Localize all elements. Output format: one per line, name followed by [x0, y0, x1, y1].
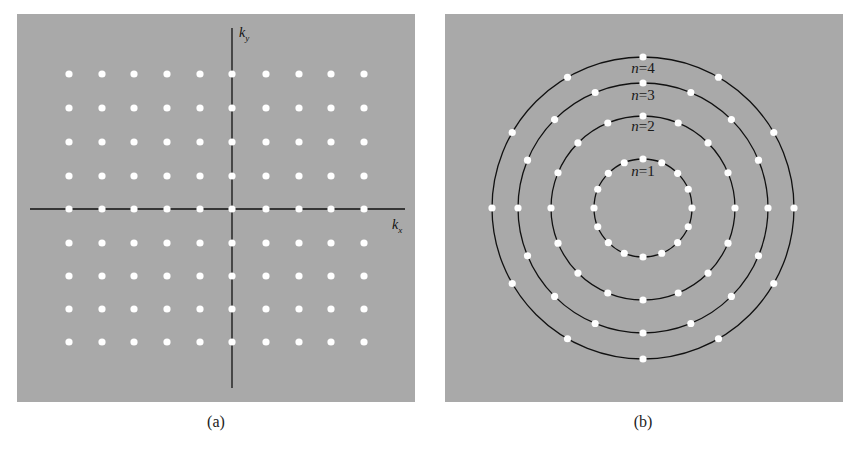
lattice-dot: [130, 272, 137, 279]
lattice-dot: [163, 104, 170, 111]
lattice-dot: [65, 172, 72, 179]
lattice-dot: [98, 138, 105, 145]
lattice-dot: [163, 305, 170, 312]
lattice-dot: [98, 338, 105, 345]
lattice-dot: [262, 305, 269, 312]
lattice-dot: [327, 205, 334, 212]
ring-dot: [547, 204, 554, 211]
lattice-dot: [163, 70, 170, 77]
lattice-dot: [262, 138, 269, 145]
ring-dot: [639, 329, 646, 336]
lattice-dot: [360, 239, 367, 246]
diagram-canvas: [0, 0, 849, 449]
ring-dot: [592, 320, 599, 327]
ring-dot: [551, 116, 558, 123]
ring-label-n2: n=2: [613, 118, 673, 135]
ring-dot: [509, 129, 516, 136]
ring-dot: [770, 129, 777, 136]
lattice-dot: [228, 205, 235, 212]
lattice-dot: [163, 239, 170, 246]
kx-axis-label: kx: [392, 217, 402, 235]
lattice-dot: [228, 138, 235, 145]
lattice-dot: [262, 205, 269, 212]
ring-dot: [688, 204, 695, 211]
lattice-dots: [65, 70, 367, 345]
lattice-dot: [196, 172, 203, 179]
lattice-dot: [130, 239, 137, 246]
ring-dot: [592, 89, 599, 96]
lattice-dot: [228, 305, 235, 312]
lattice-dot: [262, 272, 269, 279]
lattice-dot: [295, 338, 302, 345]
ring-dot: [639, 355, 646, 362]
lattice-dot: [228, 338, 235, 345]
lattice-dot: [130, 338, 137, 345]
ring-dot: [687, 320, 694, 327]
ring-dot: [715, 335, 722, 342]
lattice-dot: [98, 205, 105, 212]
lattice-dot: [327, 338, 334, 345]
lattice-dot: [327, 305, 334, 312]
caption-b: (b): [623, 413, 663, 431]
ring-dot: [724, 169, 731, 176]
ky-axis-label: ky: [239, 25, 249, 43]
ring-dot: [604, 289, 611, 296]
ring-dot: [674, 239, 681, 246]
lattice-dot: [196, 205, 203, 212]
ring-dot: [764, 204, 771, 211]
lattice-dot: [65, 138, 72, 145]
lattice-dot: [327, 138, 334, 145]
ring-dot: [488, 204, 495, 211]
lattice-dot: [262, 239, 269, 246]
ring-dot: [755, 157, 762, 164]
ring-dot: [790, 204, 797, 211]
ring-dot: [554, 169, 561, 176]
lattice-dot: [196, 239, 203, 246]
lattice-dot: [228, 172, 235, 179]
ring-dot: [574, 269, 581, 276]
lattice-dot: [327, 104, 334, 111]
ring-dot: [594, 186, 601, 193]
lattice-dot: [130, 138, 137, 145]
lattice-dot: [65, 239, 72, 246]
lattice-dot: [163, 172, 170, 179]
ring-dot: [770, 280, 777, 287]
lattice-dot: [262, 172, 269, 179]
lattice-dot: [196, 104, 203, 111]
ring-dot: [574, 139, 581, 146]
ring-dot: [658, 250, 665, 257]
lattice-dot: [360, 104, 367, 111]
ring-dot: [514, 204, 521, 211]
ring-dot: [685, 223, 692, 230]
lattice-dot: [295, 205, 302, 212]
lattice-dot: [196, 338, 203, 345]
lattice-dot: [295, 172, 302, 179]
ring-dot: [639, 296, 646, 303]
lattice-dot: [163, 338, 170, 345]
ring-dot: [731, 204, 738, 211]
lattice-dot: [327, 70, 334, 77]
ring-dot: [674, 170, 681, 177]
ring-dot: [639, 79, 646, 86]
ring-dot: [728, 293, 735, 300]
ring-dot: [675, 119, 682, 126]
lattice-dot: [360, 205, 367, 212]
ring-dot: [687, 89, 694, 96]
lattice-dot: [262, 70, 269, 77]
lattice-dot: [228, 70, 235, 77]
ring-dot: [590, 204, 597, 211]
lattice-dot: [65, 70, 72, 77]
lattice-dot: [196, 272, 203, 279]
ring-dot: [594, 223, 601, 230]
ring-label-n4: n=4: [613, 60, 673, 77]
lattice-dot: [163, 138, 170, 145]
lattice-dot: [228, 239, 235, 246]
lattice-dot: [163, 205, 170, 212]
ring-dot: [685, 186, 692, 193]
lattice-dot: [295, 70, 302, 77]
ring-dot: [621, 250, 628, 257]
lattice-dot: [65, 104, 72, 111]
ring-dot: [728, 116, 735, 123]
ring-dot: [551, 293, 558, 300]
lattice-dot: [360, 138, 367, 145]
